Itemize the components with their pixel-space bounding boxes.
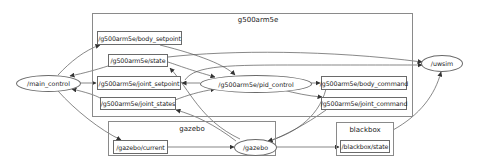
topic-joint-states[interactable]: /g500arm5e/joint_states xyxy=(100,97,176,110)
topic-gazebo-current[interactable]: /gazebo/current xyxy=(113,140,168,154)
topic-body-command[interactable]: /g500arm5e/body_command xyxy=(321,76,407,90)
cluster-g500arm5e-title: g500arm5e xyxy=(238,16,278,24)
node-main-control[interactable]: /main_control xyxy=(16,75,81,92)
topic-body-setpoint[interactable]: /g500arm5e/body_setpoint xyxy=(97,31,182,45)
topic-joint-command[interactable]: /g500arm5e/joint_command xyxy=(321,97,407,110)
topic-blackbox-state[interactable]: /blackbox/state xyxy=(340,140,390,153)
cluster-gazebo-title: gazebo xyxy=(179,125,204,133)
node-uwsim[interactable]: /uwsim xyxy=(421,55,463,72)
node-pid-control[interactable]: /g500arm5e/pid_control xyxy=(200,75,312,93)
node-gazebo[interactable]: /gazebo xyxy=(234,139,277,156)
cluster-blackbox-title: blackbox xyxy=(349,126,380,134)
topic-state[interactable]: /g500arm5e/state xyxy=(108,54,168,67)
topic-joint-setpoint[interactable]: /g500arm5e/joint_setpoint xyxy=(97,76,181,90)
